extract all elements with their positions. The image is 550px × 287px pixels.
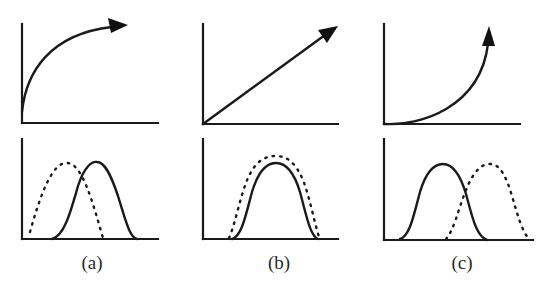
arrowhead-icon [482,26,495,46]
arrowhead-icon [108,18,128,33]
arrowhead-icon [318,26,338,43]
panel-b-label: (b) [268,252,290,274]
panel-b-bottom-plot [203,139,338,240]
panel-c-label: (c) [451,252,472,274]
solid-distribution [232,163,318,239]
dotted-distribution [30,163,103,238]
panel-c-top-plot [384,24,520,124]
panel-b [203,24,338,240]
accelerating-curve [384,44,488,124]
diagram-figure [0,0,550,287]
solid-distribution [52,162,137,239]
decelerating-curve [22,27,112,112]
panel-a-bottom-plot [22,139,158,239]
panel-b-top-plot [203,24,338,124]
panel-a-label: (a) [81,252,102,274]
linear-line [203,35,325,124]
panel-c [384,24,533,240]
panel-a [22,18,158,239]
panel-c-bottom-plot [384,139,533,240]
panel-a-top-plot [22,18,158,123]
